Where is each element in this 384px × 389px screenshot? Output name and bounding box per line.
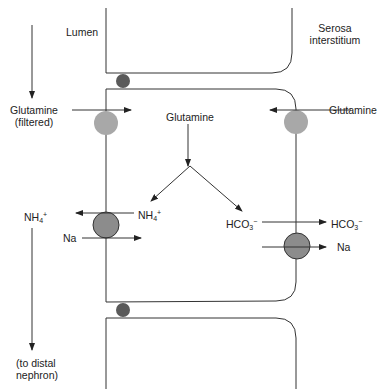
nh4-cell-label: NH4+ [138,207,161,225]
lower-cell-outline [106,318,296,389]
hco3-out-sup: − [358,218,362,225]
hco3-cell-base: HCO [226,218,249,230]
nh4-production-arrow [151,166,190,201]
apical-glutamine-transporter [94,111,118,135]
to-distal-line2: nephron) [16,369,58,381]
hco3-out-label: HCO3− [331,216,362,234]
nh4-lumen-sup: + [43,211,47,218]
hco3-cell-label: HCO3− [226,216,257,234]
nh4-cell-base: NH [138,209,153,221]
glutamine-right-label: Glutamine [329,104,377,116]
glutamine-center-label: Glutamine [166,111,214,123]
hco3-cell-sup: − [253,218,257,225]
lumen-label: Lumen [66,26,98,38]
nh4-lumen-label: NH4+ [24,209,47,227]
glutamine-filtered-line1: Glutamine [6,104,62,116]
nh4-lumen-sub: 4 [39,217,43,224]
basolateral-glutamine-transporter [284,110,308,134]
hco3-production-arrow [190,166,242,211]
glutamine-filtered-line2: (filtered) [6,116,62,128]
apical-na-nh4-exchanger [93,212,119,238]
tight-junction-top [116,74,130,88]
upper-cell-outline [106,8,292,73]
renal-ammoniagenesis-diagram [0,0,384,389]
glutamine-filtered-label: Glutamine (filtered) [6,104,62,128]
hco3-cell-sub: 3 [249,224,253,231]
tight-junction-bottom [116,303,130,317]
na-out-label: Na [337,241,350,253]
hco3-out-base: HCO [331,218,354,230]
nh4-lumen-base: NH [24,211,39,223]
serosa-label-line1: Serosa [305,22,365,34]
serosa-label-line2: interstitium [305,34,365,46]
nh4-cell-sup: + [157,209,161,216]
basolateral-na-hco3-cotransporter [284,233,310,259]
hco3-out-sub: 3 [354,224,358,231]
nh4-cell-sub: 4 [153,215,157,222]
na-lumen-label: Na [63,232,76,244]
to-distal-line1: (to distal [16,357,58,369]
serosa-label: Serosa interstitium [305,22,365,46]
to-distal-label: (to distal nephron) [16,357,58,381]
